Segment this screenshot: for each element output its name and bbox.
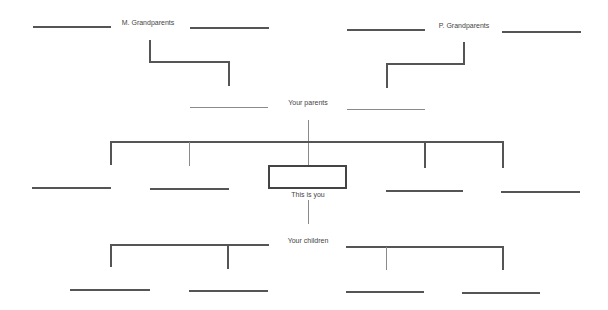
m-grandparents-label: M. Grandparents	[122, 19, 175, 27]
parent-1-blank	[190, 107, 268, 108]
p-grandparent-2-blank	[502, 31, 581, 33]
sibling-drop-4	[502, 143, 504, 168]
sibling-3-blank	[386, 190, 463, 192]
m-grandparent-1-blank	[33, 26, 111, 28]
child-3-blank	[346, 291, 424, 293]
m-connector-v2	[228, 61, 230, 86]
p-connector-v1	[463, 42, 465, 65]
sibling-2-blank	[150, 188, 229, 190]
sibling-drop-2	[189, 142, 190, 166]
p-grandparent-1-blank	[347, 29, 425, 31]
child-drop-3	[386, 247, 387, 270]
siblings-bar	[110, 141, 504, 143]
you-label: This is you	[291, 191, 324, 199]
you-to-children-connector	[308, 200, 309, 224]
child-drop-1	[110, 244, 112, 267]
child-2-blank	[189, 290, 268, 292]
sibling-4-blank	[501, 191, 580, 193]
child-drop-2	[227, 245, 229, 269]
child-1-blank	[70, 289, 150, 291]
m-connector-h	[149, 61, 230, 63]
parents-label: Your parents	[288, 99, 327, 107]
child-4-blank	[462, 292, 540, 294]
you-box	[268, 165, 347, 189]
child-drop-4	[502, 246, 504, 270]
parent-2-blank	[347, 109, 425, 110]
parents-to-siblings-connector	[308, 120, 309, 166]
p-grandparents-label: P. Grandparents	[439, 22, 489, 30]
p-connector-v2	[386, 63, 388, 88]
m-grandparent-2-blank	[190, 27, 269, 29]
children-bar-right	[346, 246, 504, 248]
children-bar-left	[110, 244, 269, 246]
sibling-drop-1	[110, 141, 112, 165]
children-label: Your children	[288, 237, 329, 245]
m-connector-v1	[149, 40, 151, 63]
p-connector-h	[386, 63, 465, 65]
sibling-1-blank	[32, 187, 111, 189]
sibling-drop-3	[424, 143, 426, 168]
